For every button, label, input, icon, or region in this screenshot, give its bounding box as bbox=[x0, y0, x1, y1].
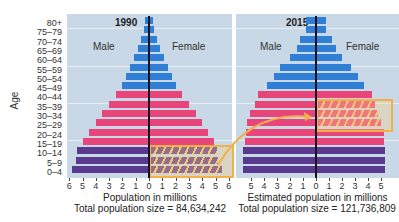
male-bar bbox=[116, 91, 149, 98]
female-bar bbox=[149, 73, 172, 80]
male-label-2015: Male bbox=[260, 41, 282, 52]
male-bar bbox=[246, 129, 316, 136]
hatch-pattern bbox=[151, 157, 218, 164]
male-bar bbox=[250, 110, 316, 117]
x-tick-label: 3 bbox=[184, 181, 194, 191]
x-tick-label: 4 bbox=[363, 181, 373, 191]
hatch-pattern bbox=[318, 101, 375, 108]
female-bar bbox=[149, 129, 208, 136]
female-bar bbox=[316, 54, 342, 61]
female-bar bbox=[316, 36, 332, 43]
female-bar bbox=[316, 64, 351, 71]
female-bar bbox=[316, 17, 326, 24]
x-tick-label: 3 bbox=[350, 181, 360, 191]
age-tick-label: 25–29 bbox=[37, 121, 62, 130]
x-tick-label: 1 bbox=[131, 181, 141, 191]
x-tick-label: 0 bbox=[144, 181, 154, 191]
x-axis-title-2015: Estimated population in millions bbox=[236, 192, 399, 203]
x-tick-label: 5 bbox=[246, 181, 256, 191]
male-bar bbox=[255, 101, 316, 108]
pyramid-1990: 1990 Male Female bbox=[67, 14, 232, 178]
pyramid-2015: 2015 Male Female bbox=[236, 14, 399, 178]
x-tick-label: 4 bbox=[91, 181, 101, 191]
female-bar bbox=[316, 91, 372, 98]
x-tick-label: 1 bbox=[324, 181, 334, 191]
x-tick-label: 2 bbox=[171, 181, 181, 191]
male-bar bbox=[134, 54, 149, 61]
age-tick-label: 10–14 bbox=[37, 149, 62, 158]
female-bar bbox=[149, 101, 189, 108]
male-bar bbox=[274, 73, 316, 80]
male-bar bbox=[126, 73, 149, 80]
x-tick-label: 5 bbox=[211, 181, 221, 191]
x-tick-label: 6 bbox=[64, 181, 74, 191]
age-axis-title: Age bbox=[9, 92, 20, 110]
male-bar bbox=[76, 157, 149, 164]
male-bar bbox=[267, 82, 316, 89]
male-bar bbox=[297, 45, 317, 52]
total-population-1990: Total population size = 84,634,242 bbox=[55, 203, 245, 214]
x-tick-label: 5 bbox=[376, 181, 386, 191]
male-bar bbox=[247, 119, 316, 126]
female-bar bbox=[316, 73, 358, 80]
center-axis-line bbox=[148, 16, 150, 178]
x-tick-label: 4 bbox=[259, 181, 269, 191]
center-axis-line bbox=[315, 16, 317, 178]
year-1990-label: 1990 bbox=[115, 17, 137, 28]
male-bar bbox=[77, 147, 149, 154]
male-bar bbox=[122, 82, 149, 89]
x-tick-label: 1 bbox=[157, 181, 167, 191]
male-bar bbox=[83, 138, 150, 145]
male-bar bbox=[109, 101, 149, 108]
male-bar bbox=[290, 54, 316, 61]
female-bar bbox=[149, 36, 157, 43]
age-axis: Age 80+75–7970–7465–6960–6455–5950–5445–… bbox=[0, 0, 66, 222]
female-bar bbox=[316, 138, 384, 145]
female-bar bbox=[316, 147, 385, 154]
male-bar bbox=[280, 64, 316, 71]
male-bar bbox=[243, 157, 316, 164]
age-tick-label: 75–79 bbox=[37, 28, 62, 37]
female-bar bbox=[149, 45, 160, 52]
female-bar bbox=[149, 64, 168, 71]
female-bar bbox=[316, 82, 364, 89]
x-axis-title-1990: Population in millions bbox=[60, 192, 240, 203]
hatch-pattern bbox=[318, 110, 378, 117]
female-bar bbox=[316, 157, 385, 164]
x-tick-label: 1 bbox=[298, 181, 308, 191]
age-tick-label: 60–64 bbox=[37, 56, 62, 65]
male-bar bbox=[243, 147, 316, 154]
x-tick-label: 0 bbox=[311, 181, 321, 191]
female-label-1990: Female bbox=[172, 41, 205, 52]
x-tick-label: 3 bbox=[104, 181, 114, 191]
hatch-pattern bbox=[318, 119, 381, 126]
male-bar bbox=[130, 64, 149, 71]
male-bar bbox=[243, 166, 316, 173]
female-bar bbox=[316, 26, 326, 33]
male-label-1990: Male bbox=[93, 41, 115, 52]
female-bar bbox=[149, 82, 176, 89]
hatch-pattern bbox=[151, 147, 217, 154]
male-bar bbox=[245, 138, 317, 145]
male-bar bbox=[300, 36, 316, 43]
x-tick-label: 4 bbox=[197, 181, 207, 191]
x-axis-1990: 6543210123456 bbox=[67, 178, 232, 190]
female-bar bbox=[316, 45, 336, 52]
male-bar bbox=[89, 129, 149, 136]
male-bar bbox=[96, 119, 149, 126]
x-axis-2015: 54321012345 bbox=[236, 178, 399, 190]
male-bar bbox=[72, 166, 149, 173]
female-label-2015: Female bbox=[346, 41, 379, 52]
hatch-pattern bbox=[151, 166, 222, 173]
x-tick-label: 2 bbox=[285, 181, 295, 191]
female-bar bbox=[316, 166, 385, 173]
x-tick-label: 2 bbox=[117, 181, 127, 191]
x-tick-label: 2 bbox=[337, 181, 347, 191]
age-tick-label: 0–4 bbox=[47, 168, 62, 177]
female-bar bbox=[149, 54, 164, 61]
total-population-2015: Total population size = 121,736,809 bbox=[232, 203, 399, 214]
x-tick-label: 6 bbox=[224, 181, 234, 191]
male-bar bbox=[258, 91, 317, 98]
x-tick-label: 3 bbox=[272, 181, 282, 191]
female-bar bbox=[149, 138, 214, 145]
